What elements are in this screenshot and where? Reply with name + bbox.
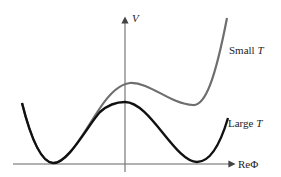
small-t-label: Small T [229, 44, 264, 56]
y-axis-label: V [132, 12, 140, 24]
large-t-label: Large T [228, 117, 263, 129]
x-axis-label: ReΦ [238, 158, 258, 170]
potential-diagram: V Small T Large T ReΦ [0, 0, 281, 177]
